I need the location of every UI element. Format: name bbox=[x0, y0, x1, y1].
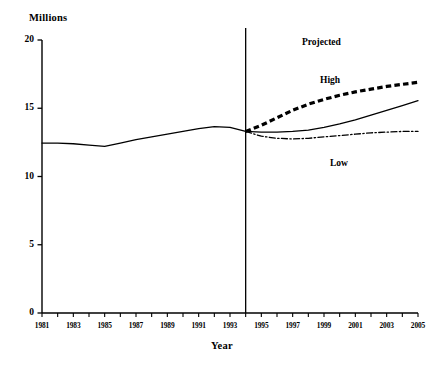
x-tick-label: 1987 bbox=[122, 322, 150, 329]
x-tick-label: 1983 bbox=[59, 322, 87, 329]
x-tick-label: 2003 bbox=[373, 322, 401, 329]
x-tick-label: 2005 bbox=[404, 322, 432, 329]
x-tick-label: 1991 bbox=[185, 322, 213, 329]
y-tick-label: 5 bbox=[12, 240, 34, 250]
y-axis-title: Millions bbox=[29, 13, 67, 24]
x-tick-label: 1993 bbox=[216, 322, 244, 329]
x-tick-label: 1981 bbox=[28, 322, 56, 329]
y-tick-label: 10 bbox=[12, 172, 34, 182]
series-line-historical bbox=[42, 127, 246, 147]
chart-figure: Millions Year Projected High Low 0510152… bbox=[0, 0, 439, 366]
series-line-middle bbox=[246, 101, 418, 132]
y-tick-label: 15 bbox=[12, 103, 34, 113]
x-tick-label: 1999 bbox=[310, 322, 338, 329]
annotation-low: Low bbox=[330, 159, 348, 169]
chart-plot-area bbox=[0, 0, 439, 366]
x-tick-label: 2001 bbox=[341, 322, 369, 329]
y-tick-label: 20 bbox=[12, 35, 34, 45]
x-tick-label: 1995 bbox=[247, 322, 275, 329]
annotation-projected: Projected bbox=[302, 38, 341, 48]
x-tick-label: 1985 bbox=[91, 322, 119, 329]
x-axis-title: Year bbox=[211, 341, 233, 352]
y-tick-label: 0 bbox=[12, 308, 34, 318]
x-tick-label: 1997 bbox=[279, 322, 307, 329]
series-line-high bbox=[246, 82, 418, 131]
x-tick-label: 1989 bbox=[153, 322, 181, 329]
annotation-high: High bbox=[320, 76, 340, 86]
